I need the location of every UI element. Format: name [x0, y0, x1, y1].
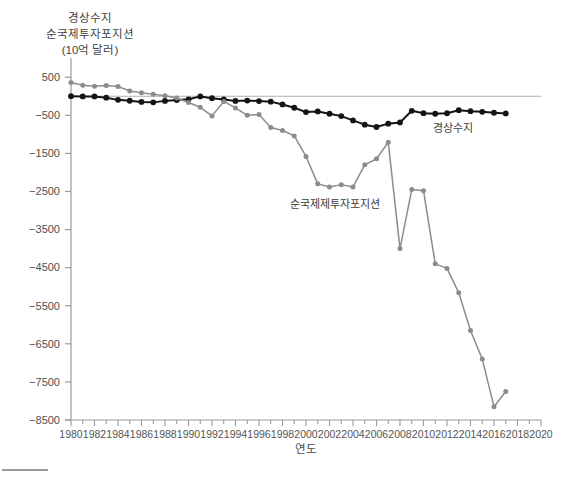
- data-point: [480, 357, 485, 362]
- y-tick-label: −4500: [29, 261, 60, 273]
- data-point: [456, 107, 462, 113]
- data-point: [468, 108, 474, 114]
- data-point: [362, 162, 367, 167]
- data-point: [327, 111, 333, 117]
- series-label-niip: 순국제제투자포지션: [290, 198, 380, 210]
- chart-title-line-1: 경상수지: [68, 11, 112, 24]
- x-axis-ticks: 1980198219841986198819901992199419961998…: [59, 420, 553, 440]
- x-tick-label: 2004: [341, 428, 365, 440]
- y-tick-label: −7500: [29, 376, 60, 388]
- data-point: [492, 404, 497, 409]
- x-tick-label: 1990: [177, 428, 201, 440]
- data-point: [468, 328, 473, 333]
- chart-title-line-3: (10억 달러): [62, 43, 119, 56]
- data-point: [409, 187, 414, 192]
- data-point: [116, 84, 121, 89]
- data-point: [362, 122, 368, 128]
- data-point: [221, 99, 226, 104]
- data-point: [139, 99, 145, 105]
- data-point: [292, 133, 297, 138]
- data-point: [257, 112, 262, 117]
- data-point: [339, 182, 344, 187]
- data-point: [503, 389, 508, 394]
- data-point: [303, 109, 309, 115]
- data-point: [397, 120, 403, 126]
- data-point: [80, 94, 86, 100]
- data-point: [351, 184, 356, 189]
- y-tick-label: 500: [42, 71, 60, 83]
- data-point: [433, 261, 438, 266]
- data-point: [127, 98, 133, 104]
- data-point: [233, 98, 239, 104]
- data-point: [398, 246, 403, 251]
- data-point: [338, 113, 344, 119]
- data-point: [445, 266, 450, 271]
- data-point: [421, 188, 426, 193]
- data-point: [162, 98, 168, 104]
- data-point: [280, 128, 285, 133]
- x-tick-label: 1992: [200, 428, 224, 440]
- data-point: [327, 184, 332, 189]
- data-point: [139, 90, 144, 95]
- x-tick-label: 1982: [83, 428, 107, 440]
- chart-title-line-2: 순국제투자포지션: [46, 28, 134, 40]
- data-point: [432, 111, 438, 117]
- chart-canvas: 경상수지 순국제투자포지션 (10억 달러) 500−500−1500−2500…: [0, 0, 580, 478]
- x-tick-label: 1986: [130, 428, 154, 440]
- data-point: [68, 93, 74, 99]
- data-point: [456, 290, 461, 295]
- x-tick-label: 1988: [153, 428, 177, 440]
- data-point: [80, 83, 85, 88]
- data-point: [150, 99, 156, 105]
- data-point: [291, 105, 297, 111]
- data-point: [256, 98, 262, 104]
- y-tick-label: −6500: [29, 338, 60, 350]
- data-point: [103, 95, 109, 101]
- x-tick-label: 2010: [412, 428, 436, 440]
- data-point: [115, 97, 121, 103]
- data-point: [127, 88, 132, 93]
- data-point: [245, 113, 250, 118]
- data-point: [280, 102, 286, 108]
- x-tick-label: 2018: [506, 428, 530, 440]
- data-point: [491, 110, 497, 116]
- x-axis-title: 연도: [295, 443, 317, 455]
- y-tick-label: −1500: [29, 147, 60, 159]
- data-point: [197, 93, 203, 99]
- data-point: [385, 121, 391, 127]
- data-point: [421, 110, 427, 116]
- data-point: [104, 83, 109, 88]
- data-point: [209, 95, 215, 101]
- data-point: [315, 181, 320, 186]
- y-tick-label: −500: [35, 109, 60, 121]
- y-tick-label: −3500: [29, 223, 60, 235]
- y-axis-ticks: 500−500−1500−2500−3500−4500−5500−6500−75…: [29, 71, 71, 426]
- data-point: [92, 84, 97, 89]
- data-point: [92, 94, 98, 100]
- x-tick-label: 2008: [388, 428, 412, 440]
- data-point: [374, 156, 379, 161]
- x-tick-label: 1994: [224, 428, 248, 440]
- data-point: [174, 95, 179, 100]
- x-tick-label: 2016: [482, 428, 506, 440]
- data-point: [163, 93, 168, 98]
- chart-figure: 경상수지 순국제투자포지션 (10억 달러) 500−500−1500−2500…: [0, 0, 580, 478]
- data-point: [210, 113, 215, 118]
- data-point: [444, 110, 450, 116]
- data-point: [244, 98, 250, 104]
- data-point: [268, 125, 273, 130]
- y-tick-label: −2500: [29, 185, 60, 197]
- series-label-current-account: 경상수지: [433, 122, 473, 134]
- x-tick-label: 2006: [365, 428, 389, 440]
- data-point: [198, 105, 203, 110]
- x-tick-label: 1996: [247, 428, 271, 440]
- data-point: [315, 109, 321, 115]
- data-point: [350, 118, 356, 124]
- data-point: [304, 154, 309, 159]
- y-tick-label: −8500: [29, 414, 60, 426]
- y-tick-label: −5500: [29, 300, 60, 312]
- x-tick-label: 2012: [435, 428, 459, 440]
- data-point: [186, 100, 191, 105]
- data-point: [479, 109, 485, 115]
- x-tick-label: 1998: [271, 428, 295, 440]
